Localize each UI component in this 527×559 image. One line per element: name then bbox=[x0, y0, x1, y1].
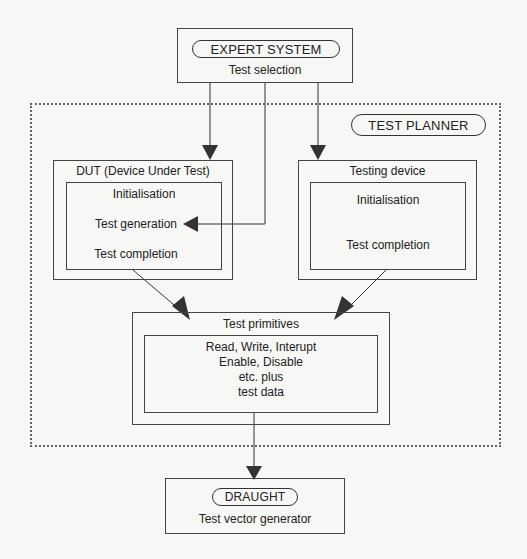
dut-title: DUT (Device Under Test) bbox=[53, 164, 233, 178]
testing-device-item-test-completion: Test completion bbox=[310, 238, 466, 252]
test-primitives-title: Test primitives bbox=[132, 317, 390, 331]
primitives-line-3: etc. plus bbox=[144, 370, 378, 384]
dut-item-initialisation: Initialisation bbox=[66, 187, 222, 201]
draught-title: DRAUGHT bbox=[212, 488, 298, 506]
dut-item-test-generation: Test generation bbox=[66, 217, 206, 231]
primitives-line-4: test data bbox=[144, 385, 378, 399]
expert-system-subtitle: Test selection bbox=[177, 63, 353, 77]
expert-system-title: EXPERT SYSTEM bbox=[192, 40, 340, 58]
primitives-line-1: Read, Write, Interupt bbox=[144, 340, 378, 354]
draught-subtitle: Test vector generator bbox=[165, 512, 345, 526]
primitives-line-2: Enable, Disable bbox=[144, 355, 378, 369]
test-planner-title: TEST PLANNER bbox=[351, 114, 486, 136]
testing-device-item-initialisation: Initialisation bbox=[310, 193, 466, 207]
dut-item-test-completion: Test completion bbox=[66, 247, 206, 261]
testing-device-title: Testing device bbox=[298, 164, 477, 178]
